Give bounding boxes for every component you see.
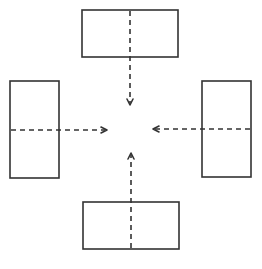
- diagram-canvas: [0, 0, 262, 269]
- arrow-down-icon: [127, 11, 133, 105]
- arrow-up-icon: [128, 153, 134, 248]
- convergence-diagram: [0, 0, 262, 269]
